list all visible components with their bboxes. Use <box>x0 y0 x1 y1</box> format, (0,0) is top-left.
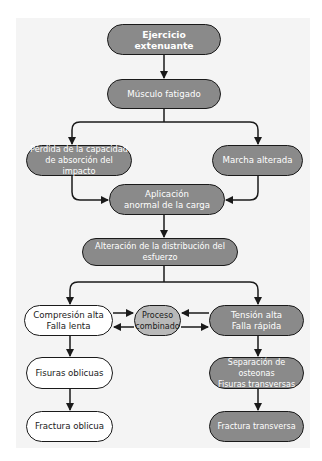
node-label: Fractura transversa <box>217 421 295 432</box>
node-aplicacion-anormal: Aplicación anormal de la carga <box>109 184 225 215</box>
node-alteracion-distribucion: Alteración de la distribución del esfuer… <box>82 238 238 266</box>
node-label-line2: Falla lenta <box>47 321 91 332</box>
node-separacion-osteonas: Separación de osteonas Fisuras transvers… <box>209 357 304 389</box>
node-label: Fractura oblicua <box>35 421 104 432</box>
node-label-line1: Proceso <box>142 310 173 321</box>
node-label-line2: Falla rápida <box>232 321 282 332</box>
node-compresion-alta: Compresión alta Falla lenta <box>24 305 113 336</box>
node-ejercicio-extenuante: Ejercicio extenuante <box>107 24 221 55</box>
node-label: Marcha alterada <box>222 155 292 166</box>
node-label-line1: Separación de osteonas <box>213 357 300 379</box>
node-musculo-fatigado: Músculo fatigado <box>107 79 221 109</box>
node-fisuras-oblicuas: Fisuras oblicuas <box>26 357 113 389</box>
node-label-line2: Fisuras transversas <box>218 379 295 390</box>
node-label: Músculo fatigado <box>127 89 200 100</box>
node-proceso-combinado: Proceso combinado <box>134 305 181 336</box>
node-label-line1: Compresión alta <box>33 310 103 321</box>
node-label-line2: combinado <box>135 321 179 332</box>
node-label: Alteración de la distribución del esfuer… <box>86 241 234 263</box>
node-perdida-capacidad: Pérdida de la capacidad de absorción del… <box>26 145 132 176</box>
node-label-line2: de absorción del impacto <box>30 155 128 177</box>
node-label-line1: Tensión alta <box>231 310 282 321</box>
node-fractura-transversa: Fractura transversa <box>209 411 304 442</box>
node-fractura-oblicua: Fractura oblicua <box>26 411 113 442</box>
node-label-line1: Pérdida de la capacidad <box>30 144 128 155</box>
node-tension-alta: Tensión alta Falla rápida <box>209 305 304 336</box>
node-label-line2: anormal de la carga <box>124 200 210 211</box>
node-label-line1: Aplicación <box>145 189 189 200</box>
connector-arrows <box>0 0 322 461</box>
node-marcha-alterada: Marcha alterada <box>212 145 303 176</box>
node-label: Fisuras oblicuas <box>35 368 103 379</box>
node-label: Ejercicio extenuante <box>111 29 217 51</box>
